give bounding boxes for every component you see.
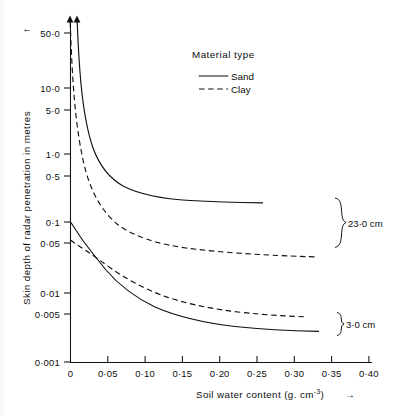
y-tick-label: 0·05 [40,238,60,249]
x-tick-label: 0·25 [247,368,267,379]
x-axis-ticks: 0 0·05 0·10 0·15 0·20 0·25 0·30 0·35 0·4… [68,356,379,379]
y-tick-label: 5·0 [46,105,60,116]
radar-penetration-chart: 50·0 10·0 5·0 1·0 0·5 0·1 0·05 0·01 0·00… [0,0,417,416]
brace-upper-icon [335,198,346,248]
y-tick-label: 1·0 [46,149,60,160]
axis-titles: Soil water content (g. cm-3) → Skin dept… [21,27,355,400]
legend: Material type Sand Clay [192,49,255,95]
sand-curve-arrow-icon [74,16,81,23]
y-axis-ticks: 50·0 10·0 5·0 1·0 0·5 0·1 0·05 0·01 0·00… [35,28,71,368]
x-axis-title-superscript: -3 [314,388,321,395]
y-tick-label: 0·5 [46,171,60,182]
clay-curve-lower [71,240,307,317]
x-tick-label: 0·20 [210,368,230,379]
group-annotations: 23·0 cm 3·0 cm [335,198,383,336]
annotation-label-lower: 3·0 cm [346,319,375,330]
x-axis-title: Soil water content (g. cm-3) [196,388,324,400]
x-tick-label: 0 [68,368,73,379]
axis-group [71,18,373,363]
curves-lower-group [71,222,319,331]
y-tick-label: 0·001 [35,357,60,368]
y-axis-arrow-icon: ↑ [21,27,32,32]
sand-curve-lower [71,222,319,331]
x-axis-arrow-icon: → [345,389,355,400]
legend-label-clay: Clay [231,84,251,95]
x-tick-label: 0·40 [359,368,379,379]
y-tick-label: 0·1 [46,217,60,228]
figure-container: 50·0 10·0 5·0 1·0 0·5 0·1 0·05 0·01 0·00… [0,0,417,416]
brace-lower-icon [337,313,344,336]
y-tick-label: 50·0 [40,28,60,39]
x-tick-label: 0·10 [135,368,155,379]
annotation-label-upper: 23·0 cm [348,218,383,229]
x-axis-title-main: Soil water content (g. cm [196,389,314,400]
clay-curve-arrow-icon [67,16,74,23]
y-tick-label: 10·0 [40,83,60,94]
x-tick-label: 0·15 [172,368,192,379]
y-axis-title: Skin depth of radar penetration in metre… [21,111,32,305]
legend-label-sand: Sand [231,71,254,82]
x-axis-title-tail: ) [320,389,324,400]
y-tick-label: 0·005 [35,309,60,320]
curve-top-arrowheads [67,16,81,23]
x-tick-label: 0·30 [284,368,304,379]
legend-title: Material type [192,49,255,60]
x-tick-label: 0·05 [98,368,118,379]
y-tick-label: 0·01 [40,288,60,299]
x-tick-label: 0·35 [322,368,342,379]
